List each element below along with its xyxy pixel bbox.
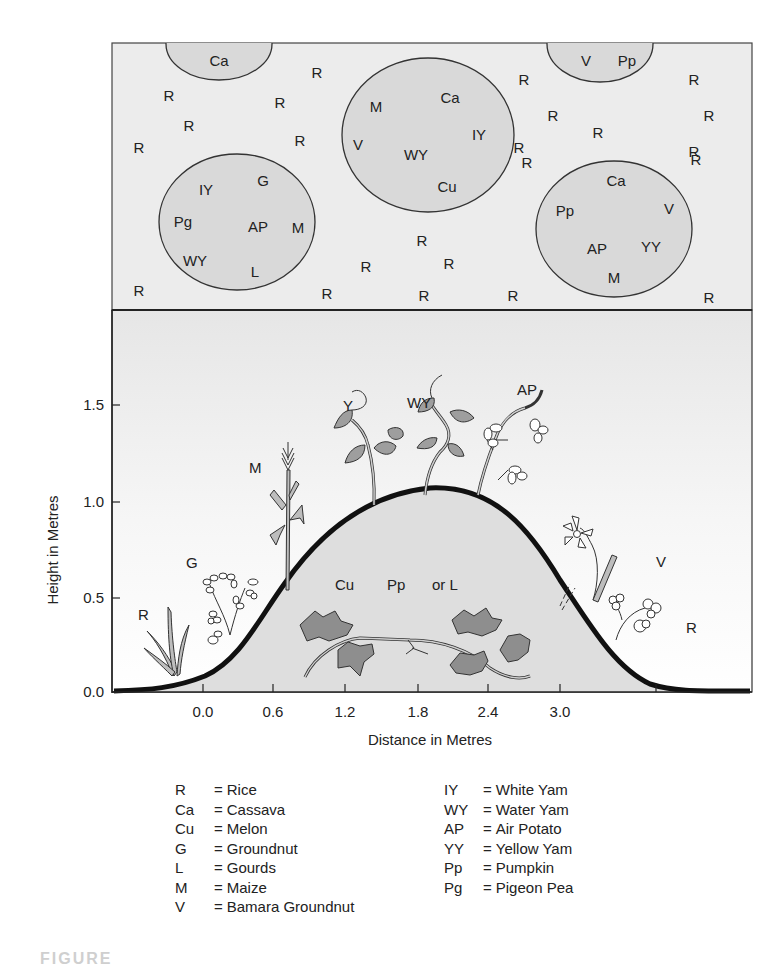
x-tick-label: 0.6 [263, 703, 284, 720]
label-groundnut: G [186, 554, 198, 571]
label-melon: Cu [335, 576, 354, 593]
crop-code-label: YY [641, 238, 661, 255]
crop-code-label: Pg [174, 213, 192, 230]
crop-code-label: V [581, 52, 591, 69]
label-water-yam: WY [407, 394, 431, 411]
crop-cluster: CaPpVAPYYM [536, 161, 692, 297]
crop-code-label: Cu [437, 178, 456, 195]
y-tick-labels: 0.0 0.5 1.0 1.5 [83, 396, 104, 700]
label-pumpkin: Pp [387, 576, 405, 593]
x-tick-labels: 0.0 0.6 1.2 1.8 2.4 3.0 [193, 703, 571, 720]
legend-left: R=Rice Ca=Cassava Cu=Melon G=Groundnut L… [175, 780, 354, 917]
rice-code-label: R [164, 87, 175, 104]
y-tick-label: 1.0 [83, 493, 104, 510]
legend-item: AP=Air Potato [444, 819, 573, 839]
cluster-circle [166, 8, 272, 80]
crop-code-label: Ca [209, 52, 229, 69]
legend-item: WY=Water Yam [444, 800, 573, 820]
legend-item: R=Rice [175, 780, 354, 800]
legend-item: Ca=Cassava [175, 800, 354, 820]
crop-code-label: WY [183, 252, 207, 269]
rice-code-label: R [508, 287, 519, 304]
y-tick-label: 0.0 [83, 683, 104, 700]
crop-code-label: L [251, 263, 259, 280]
crop-code-label: WY [404, 146, 428, 163]
cross-section: 0.0 0.5 1.0 1.5 0.0 0.6 1.2 1.8 2.4 3.0 … [44, 310, 752, 748]
crop-code-label: AP [248, 218, 268, 235]
crop-code-label: Pp [556, 202, 574, 219]
crop-code-label: M [292, 219, 305, 236]
rice-code-label: R [312, 64, 323, 81]
label-rice-right: R [686, 619, 697, 636]
crop-code-label: AP [587, 240, 607, 257]
x-axis-label: Distance in Metres [368, 731, 492, 748]
rice-code-label: R [444, 255, 455, 272]
rice-code-label: R [548, 107, 559, 124]
crop-code-label: Pp [618, 52, 636, 69]
legend-item: V=Bamara Groundnut [175, 897, 354, 917]
cluster-circle [342, 58, 514, 212]
rice-code-label: R [275, 94, 286, 111]
legend-item: Pp=Pumpkin [444, 858, 573, 878]
rice-code-label: R [184, 117, 195, 134]
x-tick-label: 1.2 [335, 703, 356, 720]
rice-code-label: R [691, 151, 702, 168]
label-bambara-groundnut: V [656, 553, 666, 570]
legend-right: IY=White Yam WY=Water Yam AP=Air Potato … [444, 780, 573, 897]
label-yam: Y [343, 397, 353, 414]
label-rice-left: R [138, 606, 149, 623]
crop-code-label: Ca [606, 172, 626, 189]
y-axis-label: Height in Metres [44, 495, 61, 604]
crop-cluster: VPp [547, 6, 653, 82]
crop-cluster: MCaIYVWYCu [342, 58, 514, 212]
cluster-circle [547, 6, 653, 82]
x-tick-label: 1.8 [408, 703, 429, 720]
label-maize: M [249, 459, 262, 476]
crop-cluster: Ca [166, 8, 272, 80]
legend-item: Cu=Melon [175, 819, 354, 839]
crop-code-label: G [257, 172, 269, 189]
crop-code-label: V [664, 200, 674, 217]
legend-item: Pg=Pigeon Pea [444, 878, 573, 898]
legend-item: IY=White Yam [444, 780, 573, 800]
crop-code-label: Ca [440, 89, 460, 106]
rice-code-label: R [322, 285, 333, 302]
rice-code-label: R [689, 71, 700, 88]
x-tick-label: 3.0 [550, 703, 571, 720]
rice-code-label: R [419, 287, 430, 304]
x-tick-label: 2.4 [478, 703, 499, 720]
crop-code-label: M [370, 98, 383, 115]
label-air-potato: AP [517, 381, 537, 398]
crop-code-label: IY [199, 181, 213, 198]
figure-caption-partial: FIGURE [40, 950, 740, 964]
rice-code-label: R [361, 258, 372, 275]
y-tick-label: 0.5 [83, 589, 104, 606]
rice-code-label: R [519, 71, 530, 88]
x-tick-label: 0.0 [193, 703, 214, 720]
legend-item: M=Maize [175, 878, 354, 898]
crop-code-label: V [353, 136, 363, 153]
y-tick-label: 1.5 [83, 396, 104, 413]
rice-code-label: R [593, 124, 604, 141]
crop-cluster: IYGPgAPMWYL [159, 154, 315, 290]
label-gourds: or L [432, 576, 458, 593]
rice-code-label: R [417, 232, 428, 249]
crop-code-label: M [608, 269, 621, 286]
rice-code-label: R [522, 154, 533, 171]
legend-item: G=Groundnut [175, 839, 354, 859]
crop-code-label: IY [472, 126, 486, 143]
rice-code-label: R [704, 107, 715, 124]
plan-view: CaMCaIYVWYCuVPpIYGPgAPMWYLCaPpVAPYYM RRR… [112, 6, 752, 310]
rice-code-label: R [704, 289, 715, 306]
intercropping-figure: CaMCaIYVWYCuVPpIYGPgAPMWYLCaPpVAPYYM RRR… [0, 0, 773, 964]
rice-code-label: R [134, 139, 145, 156]
legend-item: YY=Yellow Yam [444, 839, 573, 859]
rice-code-label: R [295, 132, 306, 149]
legend-item: L=Gourds [175, 858, 354, 878]
rice-code-label: R [134, 282, 145, 299]
